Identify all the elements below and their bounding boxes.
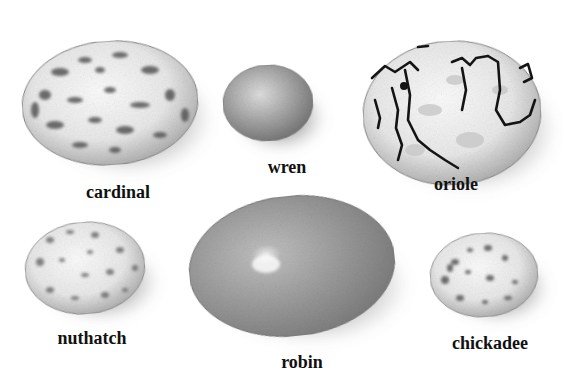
egg-robin bbox=[182, 186, 410, 347]
egg-nuthatch bbox=[21, 217, 160, 322]
label-robin: robin bbox=[281, 353, 323, 371]
bird-eggs-illustration: cardinal wren oriole nuthatch robin chic… bbox=[0, 0, 573, 388]
egg-wren bbox=[221, 63, 326, 152]
egg-cardinal bbox=[18, 35, 214, 176]
egg-chickadee bbox=[427, 229, 550, 324]
label-oriole: oriole bbox=[434, 175, 478, 193]
label-cardinal: cardinal bbox=[86, 183, 150, 201]
label-chickadee: chickadee bbox=[452, 334, 528, 352]
label-nuthatch: nuthatch bbox=[57, 329, 126, 347]
egg-oriole bbox=[359, 36, 558, 194]
label-wren: wren bbox=[268, 158, 307, 176]
